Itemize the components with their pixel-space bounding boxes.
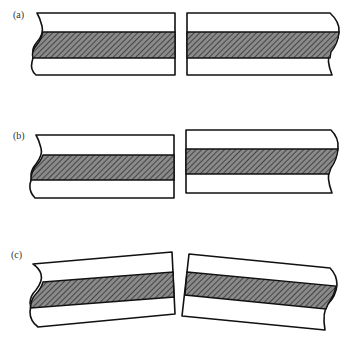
panel-b-right-piece (186, 130, 338, 193)
panel-b: (b) (13, 130, 338, 198)
panel-c-label: (c) (11, 249, 22, 261)
panel-a: (a) (13, 9, 339, 75)
panel-a-label: (a) (13, 9, 24, 21)
panel-c-right-piece (182, 254, 337, 330)
broken-bar-diagram: (a) (b) (c) (0, 0, 350, 342)
panel-a-right-piece (187, 13, 339, 75)
panel-c-left-piece (30, 252, 175, 327)
panel-c: (c) (11, 249, 337, 330)
panel-a-left-piece (32, 13, 176, 75)
panel-b-left-piece (30, 135, 174, 198)
panel-b-label: (b) (13, 130, 25, 142)
